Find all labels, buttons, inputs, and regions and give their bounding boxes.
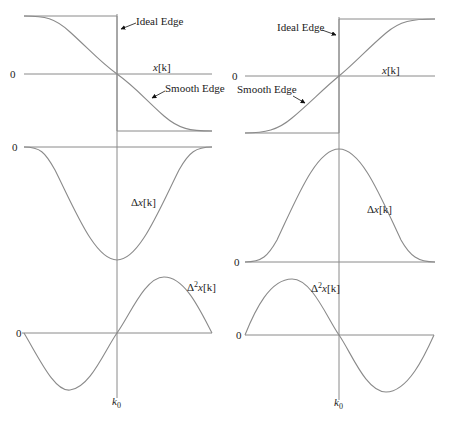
right-column: 0 Ideal Edge x[k] Smooth Edge 0 Δx[k] 0 … [232,17,435,411]
smooth-edge-label: Smooth Edge [165,82,225,94]
zero-label: 0 [236,329,242,341]
first-diff-curve [245,149,435,262]
ideal-edge-label: Ideal Edge [136,15,183,27]
k0-label-right: k0 [334,396,343,411]
signal-label: x[k] [381,64,400,76]
right-first-diff-plot: 0 Δx[k] [234,149,435,268]
first-diff-label: Δx[k] [367,203,392,215]
signal-label: x[k] [152,61,171,73]
left-column: 0 Ideal Edge x[k] Smooth Edge 0 Δx[k] 0 … [10,14,225,410]
left-first-diff-plot: 0 Δx[k] [12,141,212,260]
smooth-edge-arrow-icon [152,91,165,98]
edge-derivative-diagram: 0 Ideal Edge x[k] Smooth Edge 0 Δx[k] 0 … [0,0,451,421]
k0-label-left: k0 [112,395,121,410]
zero-label: 0 [16,327,22,339]
ideal-edge-label: Ideal Edge [277,21,324,33]
first-diff-label: Δx[k] [131,196,156,208]
ideal-edge-arrow-icon [121,23,136,29]
right-edge-plot: 0 Ideal Edge x[k] Smooth Edge [232,19,435,133]
second-diff-curve [24,277,212,390]
smooth-edge-label: Smooth Edge [237,83,297,95]
left-second-diff-plot: 0 Δ2x[k] [16,277,216,390]
zero-label: 0 [232,70,238,82]
second-diff-label: Δ2x[k] [311,281,340,294]
second-diff-label: Δ2x[k] [187,280,216,293]
zero-label: 0 [234,256,240,268]
smooth-edge-arrow-icon [293,96,305,103]
zero-label: 0 [12,141,18,153]
left-edge-plot: 0 Ideal Edge x[k] Smooth Edge [10,15,225,131]
first-diff-curve [24,147,212,260]
right-second-diff-plot: 0 Δ2x[k] [236,279,434,392]
zero-label: 0 [10,68,16,80]
